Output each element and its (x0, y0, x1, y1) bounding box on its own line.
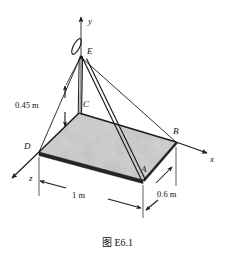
figure-drawing (0, 0, 235, 259)
point-label-c: C (83, 100, 89, 109)
dimension-label-1m: 1 m (72, 191, 85, 200)
axis-x (176, 142, 207, 153)
point-label-e: E (87, 47, 93, 56)
dimension-label-045m: 0.45 m (15, 101, 39, 110)
figure-container: y x z A B C D E 0.45 m 1 m 0.6 m 图 E6.1 (0, 0, 235, 259)
caption-prefix: 图 (102, 237, 112, 248)
point-label-b: B (173, 127, 179, 136)
point-label-a: A (141, 165, 147, 174)
post-EC (78, 58, 82, 113)
caption-number: E6.1 (114, 237, 133, 248)
point-label-d: D (24, 142, 31, 151)
axis-label-y: y (88, 17, 92, 26)
figure-caption: 图 E6.1 (0, 234, 235, 249)
axis-label-z: z (29, 174, 33, 183)
axis-label-x: x (210, 155, 214, 164)
dimension-label-06m: 0.6 m (157, 190, 176, 199)
axis-z (12, 152, 39, 178)
